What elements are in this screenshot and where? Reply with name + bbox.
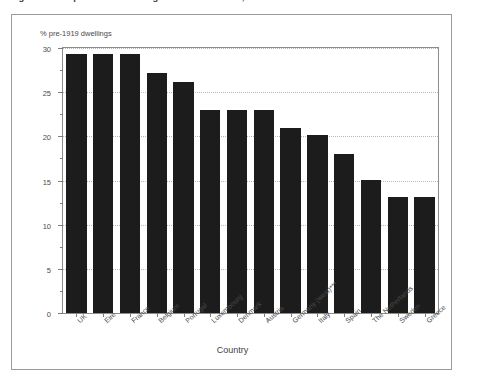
bar[interactable] [361, 180, 381, 313]
bar-slot [331, 48, 358, 313]
bar[interactable] [280, 128, 300, 313]
bar[interactable] [120, 54, 140, 313]
bar-slot [170, 48, 197, 313]
x-axis-tick [398, 313, 399, 317]
y-axis-tick: 10 [58, 225, 63, 226]
y-axis-tick: 5 [58, 269, 63, 270]
y-axis-tick-label: 5 [47, 265, 51, 274]
bar[interactable] [200, 110, 220, 313]
y-axis-minor-tick [60, 114, 63, 115]
y-axis-tick: 0 [58, 313, 63, 314]
bar[interactable] [93, 54, 113, 313]
x-axis-tick [291, 313, 292, 317]
x-axis-tick [184, 313, 185, 317]
y-axis-minor-tick [60, 203, 63, 204]
y-axis-tick-label: 25 [43, 89, 51, 98]
figure-caption: Figure 3.1 Proportion of dwellings built… [10, 0, 472, 3]
bar-slot [197, 48, 224, 313]
bar[interactable] [414, 197, 434, 313]
y-axis-tick: 15 [58, 181, 63, 182]
x-axis-tick [264, 313, 265, 317]
bar-slot [304, 48, 331, 313]
bar-slot [411, 48, 438, 313]
x-axis-tick [157, 313, 158, 317]
x-axis-tick-label: UK [76, 312, 88, 324]
bar-slot [358, 48, 385, 313]
y-axis-tick: 20 [58, 136, 63, 137]
y-axis-tick: 30 [58, 48, 63, 49]
bar-slot [224, 48, 251, 313]
bar-slot [90, 48, 117, 313]
y-axis-tick: 25 [58, 92, 63, 93]
y-axis-minor-tick [60, 158, 63, 159]
y-axis-tick-label: 15 [43, 177, 51, 186]
bar-slot [63, 48, 90, 313]
bar[interactable] [227, 110, 247, 313]
bar[interactable] [147, 73, 167, 313]
bar[interactable] [334, 154, 354, 313]
y-axis-minor-tick [60, 247, 63, 248]
y-axis-tick-label: 30 [43, 45, 51, 54]
bar-slot [384, 48, 411, 313]
y-axis-tick-label: 10 [43, 221, 51, 230]
x-axis-title: Country [12, 345, 453, 355]
plot-area [63, 48, 438, 313]
bar-slot [143, 48, 170, 313]
chart-panel: % pre-1919 dwellings 051015202530UKEireF… [11, 14, 452, 370]
y-axis-tick-label: 0 [47, 310, 51, 319]
bar-slot [251, 48, 278, 313]
bar-slot [277, 48, 304, 313]
bar[interactable] [66, 54, 86, 313]
y-axis-tick-label: 20 [43, 133, 51, 142]
y-axis-title: % pre-1919 dwellings [40, 29, 112, 38]
bar-slot [117, 48, 144, 313]
bar[interactable] [254, 110, 274, 313]
bar[interactable] [307, 135, 327, 313]
plot-frame: 051015202530UKEireFranceBelgiumPortugalL… [62, 47, 439, 314]
y-axis-minor-tick [60, 291, 63, 292]
x-axis-tick [425, 313, 426, 317]
bar[interactable] [173, 82, 193, 313]
y-axis-minor-tick [60, 70, 63, 71]
